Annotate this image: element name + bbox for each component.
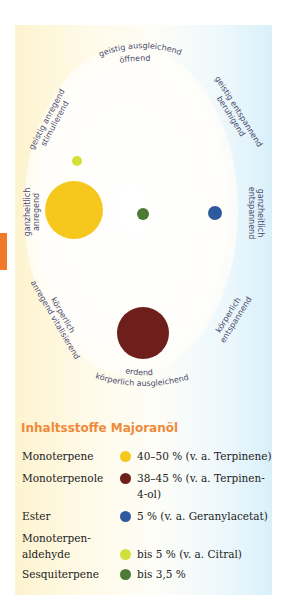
legend-value: bis 5 % (v. a. Citral) bbox=[137, 547, 242, 561]
legend-value: 38–45 % (v. a. Terpinen- bbox=[137, 471, 265, 485]
legend-dot-yellow bbox=[120, 451, 131, 462]
legend-dot-lime bbox=[120, 549, 131, 560]
label-top-sub: öffnend bbox=[119, 54, 151, 65]
legend-dot-brown bbox=[120, 473, 131, 484]
legend-name-cont: aldehyde bbox=[22, 547, 132, 561]
dot-sesquiterpene bbox=[137, 208, 149, 220]
legend-value-cont: 4-ol) bbox=[137, 487, 161, 501]
dot-monoterpenaldehyde bbox=[72, 156, 82, 166]
label-left-sub: anregend bbox=[32, 193, 41, 231]
legend-value: 40–50 % (v. a. Terpinene) bbox=[137, 449, 272, 463]
legend-name: Monoterpenole bbox=[22, 471, 132, 485]
legend-name: Monoterpen- bbox=[22, 531, 132, 545]
legend-name: Sesquiterpene bbox=[22, 567, 132, 581]
dot-ester bbox=[208, 206, 222, 220]
label-right: ganzheitlich bbox=[256, 189, 265, 238]
legend-value: bis 3,5 % bbox=[137, 567, 186, 581]
label-upper-right: geistig entspannend bbox=[213, 74, 264, 148]
dot-monoterpene bbox=[45, 181, 103, 239]
label-bottom: erdend bbox=[125, 366, 154, 377]
legend-dot-blue bbox=[120, 511, 131, 522]
legend-name: Ester bbox=[22, 509, 132, 523]
legend-title: Inhaltsstoffe Majoranöl bbox=[21, 421, 178, 435]
legend-value: 5 % (v. a. Geranylacetat) bbox=[137, 509, 268, 523]
label-left: ganzheitlich bbox=[23, 188, 32, 237]
dot-monoterpenole bbox=[117, 307, 169, 359]
legend-dot-green bbox=[120, 569, 131, 580]
label-lower-left-sub: anregend vitalisierend bbox=[29, 279, 82, 361]
label-right-sub: entspannend bbox=[247, 187, 256, 240]
legend-name: Monoterpene bbox=[22, 449, 132, 463]
label-top: geistig ausgleichend bbox=[97, 41, 182, 59]
